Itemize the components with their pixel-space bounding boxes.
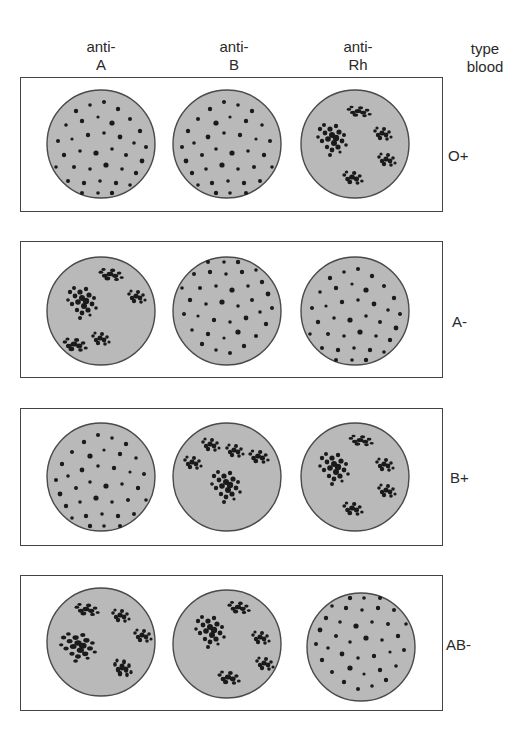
column-header-anti-a: anti- A	[61, 38, 141, 74]
plate-b-pos-anti-b	[172, 422, 282, 532]
column-header-anti-rh: anti- Rh	[318, 38, 398, 74]
blood-type-label-o-pos: O+	[448, 147, 508, 164]
column-header-line1: anti-	[318, 38, 398, 56]
type-header-line2: blood	[455, 58, 515, 76]
blood-type-label-b-pos: B+	[450, 469, 510, 486]
column-header-line2: A	[61, 56, 141, 74]
plate-b-pos-anti-a	[46, 422, 156, 532]
plate-ab-neg-anti-b	[172, 589, 282, 699]
blood-type-header: type blood	[455, 40, 515, 76]
plate-o-pos-anti-b	[172, 89, 282, 199]
plate-o-pos-anti-rh	[300, 89, 410, 199]
column-header-line1: anti-	[61, 38, 141, 56]
plate-b-pos-anti-rh	[300, 422, 410, 532]
blood-type-label-ab-neg: AB-	[446, 636, 506, 653]
type-header-line1: type	[455, 40, 515, 58]
column-header-line2: B	[194, 56, 274, 74]
plate-a-neg-anti-a	[46, 256, 156, 366]
plate-ab-neg-anti-rh	[306, 592, 416, 702]
plate-a-neg-anti-b	[172, 256, 282, 366]
column-header-anti-b: anti- B	[194, 38, 274, 74]
blood-type-label-a-neg: A-	[452, 313, 512, 330]
column-header-line1: anti-	[194, 38, 274, 56]
column-header-line2: Rh	[318, 56, 398, 74]
plate-ab-neg-anti-a	[46, 587, 156, 697]
plate-a-neg-anti-rh	[300, 256, 410, 366]
plate-o-pos-anti-a	[46, 89, 156, 199]
